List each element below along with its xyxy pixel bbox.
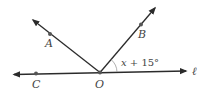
angle-diagram: A B C O ℓ x + 15° bbox=[0, 0, 210, 94]
point-a-dot bbox=[48, 32, 52, 36]
point-c-dot bbox=[34, 72, 38, 76]
angle-label-rest: + 15° bbox=[127, 57, 159, 68]
angle-label: x + 15° bbox=[121, 57, 159, 68]
point-o-label: O bbox=[95, 78, 104, 91]
point-a-label: A bbox=[44, 37, 53, 50]
point-b-dot bbox=[139, 23, 143, 27]
ray-oa bbox=[33, 20, 100, 73]
point-c-label: C bbox=[32, 78, 41, 91]
line-l-label: ℓ bbox=[192, 65, 197, 78]
point-o-dot bbox=[98, 71, 102, 75]
angle-arc bbox=[111, 60, 117, 73]
point-b-label: B bbox=[137, 28, 146, 41]
